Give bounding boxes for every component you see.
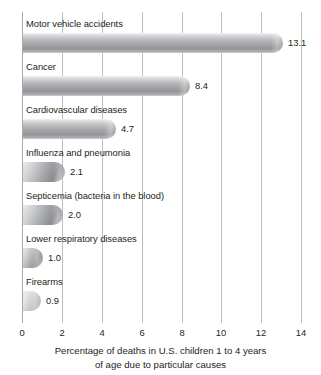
bar-firearms — [23, 291, 41, 311]
bar-chart: Motor vehicle accidents 13.1 Cancer 8.4 … — [0, 0, 321, 375]
bar-container — [23, 205, 63, 225]
bar-row: Influenza and pneumonia 2.1 — [0, 146, 321, 188]
bar-value-label: 1.0 — [48, 251, 61, 264]
bar-value-label: 4.7 — [121, 122, 134, 135]
bar-septicemia — [23, 205, 63, 225]
bar-value-label: 2.1 — [70, 165, 83, 178]
x-axis-title: Percentage of deaths in U.S. children 1 … — [0, 344, 321, 371]
xtick-label-2: 2 — [59, 327, 64, 339]
bar-cancer — [23, 76, 190, 96]
bar-row: Firearms 0.9 — [0, 275, 321, 317]
x-axis-title-line-1: Percentage of deaths in U.S. children 1 … — [0, 344, 321, 358]
bar-row: Septicemia (bacteria in the blood) 2.0 — [0, 189, 321, 231]
xtick-label-10: 10 — [216, 327, 226, 339]
bar-container — [23, 162, 65, 182]
bar-value-label: 2.0 — [68, 208, 81, 221]
bar-category-label: Lower respiratory diseases — [26, 232, 137, 245]
bar-row: Motor vehicle accidents 13.1 — [0, 17, 321, 59]
xtick-label-12: 12 — [256, 327, 266, 339]
bar-category-label: Cardiovascular diseases — [26, 103, 127, 116]
xtick-label-4: 4 — [99, 327, 104, 339]
bar-category-label: Motor vehicle accidents — [26, 17, 123, 30]
xtick-label-6: 6 — [139, 327, 144, 339]
bar-category-label: Septicemia (bacteria in the blood) — [26, 189, 164, 202]
bar-value-label: 13.1 — [288, 36, 306, 49]
x-axis-title-line-2: of age due to particular causes — [0, 358, 321, 372]
bar-container — [23, 291, 41, 311]
bar-row: Cardiovascular diseases 4.7 — [0, 103, 321, 145]
bar-container — [23, 76, 190, 96]
bar-value-label: 8.4 — [195, 79, 208, 92]
bar-row: Lower respiratory diseases 1.0 — [0, 232, 321, 274]
bar-category-label: Firearms — [26, 275, 63, 288]
bar-cardiovascular-diseases — [23, 119, 116, 139]
xtick-label-0: 0 — [19, 327, 24, 339]
plot-area: Motor vehicle accidents 13.1 Cancer 8.4 … — [0, 0, 321, 328]
bar-category-label: Cancer — [26, 60, 56, 73]
bar-lower-respiratory-diseases — [23, 248, 43, 268]
xtick-label-14: 14 — [296, 327, 306, 339]
bar-value-label: 0.9 — [46, 294, 59, 307]
xtick-label-8: 8 — [179, 327, 184, 339]
bar-container — [23, 248, 43, 268]
bar-container — [23, 33, 283, 53]
bar-category-label: Influenza and pneumonia — [26, 146, 130, 159]
bar-influenza-and-pneumonia — [23, 162, 65, 182]
bar-row: Cancer 8.4 — [0, 60, 321, 102]
bar-motor-vehicle-accidents — [23, 33, 283, 53]
bar-container — [23, 119, 116, 139]
